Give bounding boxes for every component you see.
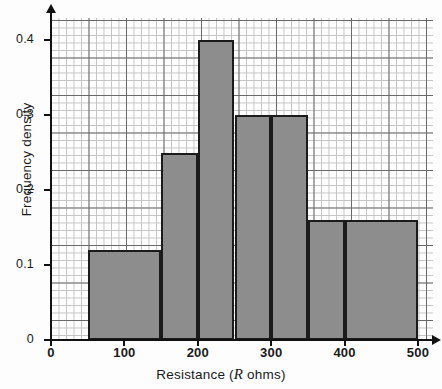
bar-bin-150-200 <box>161 153 198 341</box>
bar-series <box>51 18 433 340</box>
bar-bin-400-500 <box>345 220 418 340</box>
x-axis-title: Resistance (R ohms) <box>0 366 442 383</box>
x-tick-label-300: 300 <box>248 346 294 360</box>
y-axis-title: Frequency density <box>19 70 34 250</box>
x-title-pre: Resistance ( <box>156 367 233 382</box>
bar-bin-300-350 <box>271 115 308 340</box>
x-tick-label-400: 400 <box>322 346 368 360</box>
y-tick-0.2 <box>44 189 51 191</box>
x-axis-line <box>50 339 436 341</box>
y-tick-0.3 <box>44 114 51 116</box>
x-title-symbol: R <box>234 366 243 382</box>
y-axis-line <box>50 12 52 342</box>
x-tick-label-200: 200 <box>175 346 221 360</box>
x-tick-label-100: 100 <box>101 346 147 360</box>
x-title-post: ohms) <box>243 367 285 382</box>
x-tick-label-500: 500 <box>395 346 441 360</box>
y-tick-0.1 <box>44 264 51 266</box>
x-axis-arrow-icon <box>432 335 441 345</box>
bar-bin-50-150 <box>88 250 161 340</box>
bar-bin-200-250 <box>198 40 235 340</box>
x-tick-label-0: 0 <box>28 346 74 360</box>
histogram-chart: 00.10.20.30.4 0100200300400500 Resistanc… <box>0 0 442 389</box>
plot-area <box>51 18 433 340</box>
y-tick-label-0.1: 0.1 <box>0 258 34 271</box>
y-axis-arrow-icon <box>46 4 56 13</box>
y-tick-0.4 <box>44 39 51 41</box>
bar-bin-250-300 <box>235 115 272 340</box>
y-tick-label-0: 0 <box>0 333 34 346</box>
bar-bin-350-400 <box>308 220 345 340</box>
y-tick-label-0.4: 0.4 <box>0 33 34 46</box>
